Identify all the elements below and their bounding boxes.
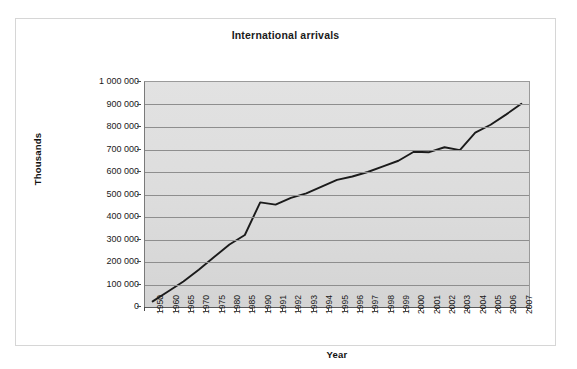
x-tick-label: 1985 — [247, 295, 257, 314]
gridline — [145, 285, 529, 286]
x-tick-mark — [159, 307, 160, 311]
gridline — [145, 262, 529, 263]
y-tick-label: 1 000 000 — [73, 77, 139, 86]
x-tick-mark — [236, 307, 237, 311]
figure-frame: International arrivals Thousands 1 000 0… — [15, 18, 556, 346]
gridline — [145, 195, 529, 196]
x-tick-label: 1965 — [186, 295, 196, 314]
x-tick-label: 1997 — [370, 295, 380, 314]
arrivals-line — [153, 104, 522, 302]
x-tick-mark — [451, 307, 452, 311]
x-tick-label: 1950 — [155, 295, 165, 314]
y-tick-label: 200 000 — [73, 257, 139, 266]
x-tick-label: 1993 — [309, 295, 319, 314]
y-axis-title: Thousands — [32, 109, 43, 209]
x-tick-mark — [405, 307, 406, 311]
x-tick-label: 2002 — [447, 295, 457, 314]
y-tick-label: 700 000 — [73, 145, 139, 154]
y-tick-label: 300 000 — [73, 235, 139, 244]
y-tick-mark — [137, 261, 141, 262]
x-tick-label: 2004 — [478, 295, 488, 314]
y-tick-mark — [137, 81, 141, 82]
x-tick-label: 2006 — [508, 295, 518, 314]
y-tick-label: 0 — [73, 302, 139, 311]
x-tick-label: 1998 — [386, 295, 396, 314]
x-tick-label: 1996 — [355, 295, 365, 314]
x-tick-label: 2000 — [416, 295, 426, 314]
x-tick-mark — [190, 307, 191, 311]
y-tick-mark — [137, 284, 141, 285]
y-tick-mark — [137, 306, 141, 307]
x-tick-mark — [144, 307, 145, 311]
gridline — [145, 127, 529, 128]
x-tick-mark — [497, 307, 498, 311]
x-tick-mark — [359, 307, 360, 311]
y-tick-mark — [137, 104, 141, 105]
plot-area — [144, 81, 530, 308]
x-tick-mark — [527, 307, 528, 311]
x-tick-mark — [482, 307, 483, 311]
x-tick-label: 1990 — [263, 295, 273, 314]
gridline — [145, 217, 529, 218]
x-tick-label: 1992 — [293, 295, 303, 314]
x-tick-label: 1970 — [201, 295, 211, 314]
y-tick-label: 400 000 — [73, 212, 139, 221]
x-tick-label: 2005 — [493, 295, 503, 314]
gridline — [145, 150, 529, 151]
x-tick-label: 1991 — [278, 295, 288, 314]
x-tick-mark — [328, 307, 329, 311]
chart-title: International arrivals — [16, 29, 555, 41]
x-tick-mark — [467, 307, 468, 311]
x-tick-mark — [175, 307, 176, 311]
x-tick-label: 1980 — [232, 295, 242, 314]
x-tick-label: 2007 — [524, 295, 534, 314]
x-tick-mark — [374, 307, 375, 311]
x-tick-label: 1999 — [401, 295, 411, 314]
x-tick-mark — [420, 307, 421, 311]
y-tick-label: 500 000 — [73, 190, 139, 199]
y-tick-mark — [137, 126, 141, 127]
x-tick-mark — [313, 307, 314, 311]
x-tick-mark — [390, 307, 391, 311]
y-tick-mark — [137, 194, 141, 195]
x-tick-mark — [221, 307, 222, 311]
x-tick-mark — [252, 307, 253, 311]
x-tick-label: 1994 — [324, 295, 334, 314]
x-tick-label: 2003 — [462, 295, 472, 314]
x-tick-mark — [344, 307, 345, 311]
gridline — [145, 240, 529, 241]
x-tick-mark — [282, 307, 283, 311]
x-tick-label: 1995 — [340, 295, 350, 314]
y-tick-label: 100 000 — [73, 280, 139, 289]
gridline — [145, 172, 529, 173]
x-tick-mark — [298, 307, 299, 311]
y-tick-mark — [137, 239, 141, 240]
y-tick-mark — [137, 216, 141, 217]
x-tick-label: 1960 — [171, 295, 181, 314]
y-tick-mark — [137, 149, 141, 150]
x-tick-label: 2001 — [432, 295, 442, 314]
x-tick-mark — [436, 307, 437, 311]
y-tick-mark — [137, 171, 141, 172]
x-tick-label: 1975 — [217, 295, 227, 314]
x-axis-title: Year — [144, 349, 530, 360]
y-tick-label: 900 000 — [73, 100, 139, 109]
x-tick-mark — [513, 307, 514, 311]
y-tick-label: 800 000 — [73, 122, 139, 131]
y-tick-label: 600 000 — [73, 167, 139, 176]
x-tick-mark — [205, 307, 206, 311]
x-tick-mark — [267, 307, 268, 311]
y-axis-ticks: 1 000 000900 000800 000700 000600 000500… — [71, 81, 139, 307]
gridline — [145, 104, 529, 105]
